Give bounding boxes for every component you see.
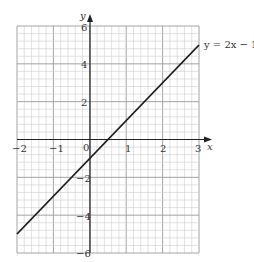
chart: y x −2 −1 0 1 2 3 6 4 2 −2 −4 −6 y = 2x … bbox=[0, 0, 254, 262]
x-tick-label: 3 bbox=[195, 143, 201, 154]
y-axis-arrow-icon bbox=[87, 14, 93, 22]
x-tick-label: −1 bbox=[49, 143, 64, 154]
y-tick-label: 2 bbox=[81, 97, 87, 108]
y-tick-label: −6 bbox=[76, 248, 91, 259]
x-tick-label: −2 bbox=[12, 143, 27, 154]
y-tick-label: −4 bbox=[76, 211, 91, 222]
y-axis-label: y bbox=[79, 10, 86, 21]
y-tick-label: −2 bbox=[76, 173, 91, 184]
line-label: y = 2x − 1 bbox=[203, 39, 254, 50]
x-axis-label: x bbox=[207, 141, 213, 152]
y-tick-label: 6 bbox=[81, 22, 87, 33]
x-tick-label: 1 bbox=[125, 143, 131, 154]
origin-label: 0 bbox=[83, 142, 89, 153]
y-tick-label: 4 bbox=[81, 59, 87, 70]
x-tick-label: 2 bbox=[160, 143, 166, 154]
